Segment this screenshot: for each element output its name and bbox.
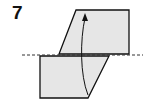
origami-fold-diagram <box>0 0 153 104</box>
lower-paper-flap <box>40 56 109 98</box>
upper-paper-flap <box>59 10 129 54</box>
